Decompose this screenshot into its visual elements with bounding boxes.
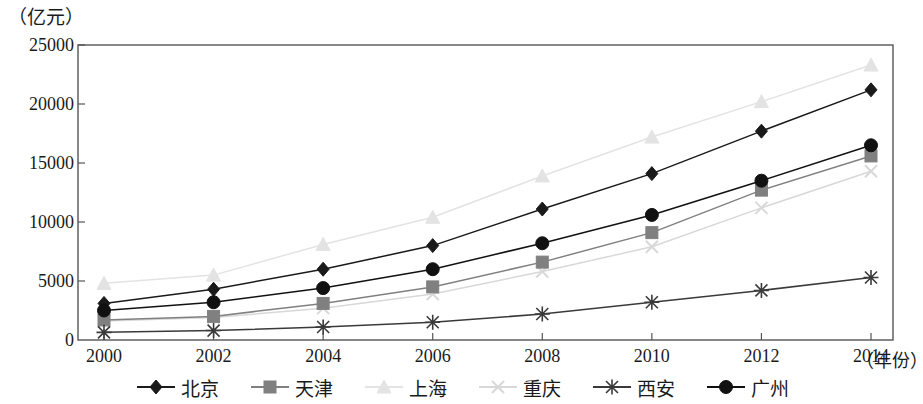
- marker-diamond: [150, 380, 162, 394]
- legend-label: 西安: [637, 374, 675, 401]
- legend-marker-diamond-icon: [135, 377, 177, 397]
- line-chart: （亿元） 0500010000150002000025000 200020022…: [0, 0, 923, 404]
- legend-item-北京[interactable]: 北京: [135, 374, 219, 401]
- plot-area: [0, 0, 923, 404]
- marker-cross: [646, 241, 658, 253]
- legend-label: 广州: [751, 374, 789, 401]
- marker-cross: [865, 165, 877, 177]
- series-上海: [97, 58, 878, 289]
- legend-label: 天津: [295, 374, 333, 401]
- marker-triangle: [207, 268, 221, 281]
- marker-diamond: [427, 239, 439, 253]
- marker-triangle: [864, 58, 878, 71]
- marker-square: [317, 297, 329, 309]
- marker-diamond: [865, 83, 877, 97]
- legend-item-西安[interactable]: 西安: [591, 374, 675, 401]
- marker-asterisk: [864, 270, 879, 285]
- marker-circle: [755, 174, 768, 187]
- marker-asterisk: [535, 307, 550, 322]
- legend-label: 重庆: [523, 374, 561, 401]
- marker-circle: [865, 139, 878, 152]
- legend-item-重庆[interactable]: 重庆: [477, 374, 561, 401]
- marker-asterisk: [316, 320, 331, 335]
- marker-circle: [645, 208, 658, 221]
- marker-asterisk: [754, 283, 769, 298]
- marker-cross: [755, 202, 767, 214]
- marker-diamond: [755, 124, 767, 138]
- series-line: [104, 65, 871, 283]
- legend-item-上海[interactable]: 上海: [363, 374, 447, 401]
- x-axis-title: （年份）: [856, 346, 923, 372]
- marker-diamond: [646, 167, 658, 181]
- marker-square: [536, 256, 548, 268]
- marker-diamond: [317, 262, 329, 276]
- marker-square: [427, 281, 439, 293]
- legend-marker-cross-icon: [477, 377, 519, 397]
- marker-triangle: [535, 169, 549, 182]
- x-axis-tick-label: 2000: [86, 346, 122, 367]
- x-axis-tick-label: 2006: [415, 346, 451, 367]
- x-axis-tick-label: 2002: [196, 346, 232, 367]
- marker-square: [208, 310, 220, 322]
- marker-circle: [207, 296, 220, 309]
- legend-marker-triangle-icon: [363, 377, 405, 397]
- marker-asterisk: [425, 315, 440, 330]
- marker-asterisk: [604, 380, 619, 395]
- legend-label: 上海: [409, 374, 447, 401]
- marker-circle: [317, 282, 330, 295]
- marker-square: [646, 227, 658, 239]
- x-axis-tick-label: 2004: [305, 346, 341, 367]
- legend-label: 北京: [181, 374, 219, 401]
- marker-circle: [536, 237, 549, 250]
- marker-square: [264, 381, 276, 393]
- marker-circle: [98, 304, 111, 317]
- legend-marker-square-icon: [249, 377, 291, 397]
- plot-frame: [78, 45, 893, 340]
- marker-diamond: [536, 202, 548, 216]
- legend-item-天津[interactable]: 天津: [249, 374, 333, 401]
- x-axis-tick-label: 2012: [743, 346, 779, 367]
- legend-marker-circle-icon: [705, 377, 747, 397]
- marker-asterisk: [97, 325, 112, 340]
- x-axis-tick-label: 2008: [524, 346, 560, 367]
- marker-asterisk: [644, 295, 659, 310]
- marker-diamond: [208, 282, 220, 296]
- marker-triangle: [426, 210, 440, 223]
- x-axis-tick-label: 2010: [634, 346, 670, 367]
- legend-item-广州[interactable]: 广州: [705, 374, 789, 401]
- marker-triangle: [754, 95, 768, 108]
- marker-circle: [426, 263, 439, 276]
- marker-circle: [719, 381, 732, 394]
- marker-triangle: [645, 130, 659, 143]
- legend-marker-asterisk-icon: [591, 377, 633, 397]
- marker-asterisk: [206, 323, 221, 338]
- chart-legend: 北京天津上海重庆西安广州: [0, 372, 923, 402]
